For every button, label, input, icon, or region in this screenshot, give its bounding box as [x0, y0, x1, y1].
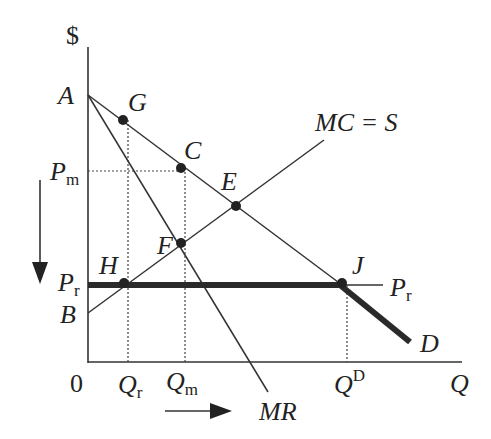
label-b: B [60, 300, 76, 329]
label-j: J [352, 251, 365, 280]
label-h: H [98, 251, 119, 280]
origin-label: 0 [70, 369, 83, 398]
label-mc-s: MC = S [314, 108, 398, 137]
price-ceiling-diagram: $ Q 0 A G C E F H J B Pm Pr Pr MC = S D … [0, 0, 491, 439]
label-f: F [156, 231, 174, 260]
point-g [118, 115, 128, 125]
point-f [176, 238, 186, 248]
label-qm: Qm [166, 367, 198, 399]
right-arrow-icon [210, 403, 232, 419]
label-pr: Pr [57, 268, 80, 300]
point-e [231, 201, 241, 211]
label-mr: MR [258, 397, 297, 426]
label-qd: QD [334, 366, 365, 399]
point-h [119, 278, 129, 288]
label-e: E [220, 167, 237, 196]
x-axis-label: Q [450, 369, 469, 398]
label-qr: Qr [118, 370, 143, 402]
point-j [337, 278, 347, 288]
label-pm: Pm [49, 157, 79, 189]
label-c: C [184, 136, 202, 165]
label-pr-right: Pr [389, 273, 412, 305]
label-g: G [128, 88, 147, 117]
down-arrow-icon [32, 262, 48, 284]
label-a: A [56, 81, 74, 110]
label-d: D [419, 329, 439, 358]
y-axis-label: $ [66, 21, 79, 50]
